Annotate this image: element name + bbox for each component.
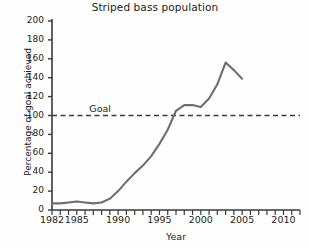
x-tick-label: 2010 <box>261 214 305 225</box>
chart-title: Striped bass population <box>0 1 310 13</box>
plot-area <box>0 0 310 249</box>
y-axis-tick-labels: 020406080100120140160180200 <box>8 0 44 249</box>
y-tick-label: 0 <box>10 205 44 214</box>
y-tick-label: 140 <box>10 73 44 82</box>
y-tick-label: 80 <box>10 129 44 138</box>
goal-annotation-label: Goal <box>89 103 111 114</box>
axis-ticks <box>48 21 300 215</box>
x-tick-label: 1995 <box>137 214 181 225</box>
y-tick-label: 20 <box>10 186 44 195</box>
axes <box>52 19 300 210</box>
x-tick-label: 1990 <box>96 214 140 225</box>
y-tick-label: 160 <box>10 54 44 63</box>
x-tick-label: 2000 <box>179 214 223 225</box>
y-tick-label: 200 <box>10 16 44 25</box>
y-tick-label: 120 <box>10 92 44 101</box>
x-tick-label: 1985 <box>55 214 99 225</box>
striped-bass-population-chart: Striped bass population Percentage of go… <box>0 0 310 249</box>
y-tick-label: 60 <box>10 148 44 157</box>
y-tick-label: 180 <box>10 35 44 44</box>
data-series-line <box>52 63 242 204</box>
y-tick-label: 40 <box>10 167 44 176</box>
x-tick-label: 2005 <box>220 214 264 225</box>
x-axis-label: Year <box>52 231 300 242</box>
y-tick-label: 100 <box>10 111 44 120</box>
